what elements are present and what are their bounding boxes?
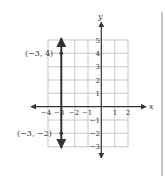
svg-text:5: 5 xyxy=(96,37,100,45)
point-neg3-4 xyxy=(60,52,64,56)
svg-text:2: 2 xyxy=(126,109,130,117)
graph-figure: x y −4 −3 −2 −1 1 2 5 4 3 2 1 −1 −2 −3 (… xyxy=(0,0,165,176)
y-axis-label: y xyxy=(97,12,103,21)
svg-text:4: 4 xyxy=(96,50,101,58)
svg-text:−4: −4 xyxy=(41,109,52,117)
svg-text:−1: −1 xyxy=(82,109,92,117)
svg-text:1: 1 xyxy=(96,90,100,98)
point-neg3-neg2 xyxy=(60,132,64,136)
point-label-neg3-4: (−3, 4) xyxy=(25,49,53,58)
separator-line xyxy=(161,12,163,176)
y-tick-labels: 5 4 3 2 1 −1 −2 −3 xyxy=(90,37,101,151)
x-axis-label: x xyxy=(149,102,154,111)
svg-text:3: 3 xyxy=(96,63,100,71)
point-label-neg3-neg2: (−3, −2) xyxy=(17,129,52,138)
svg-text:−3: −3 xyxy=(54,109,64,117)
svg-text:2: 2 xyxy=(96,77,100,85)
grid xyxy=(48,40,128,147)
svg-text:1: 1 xyxy=(113,109,117,117)
svg-text:−2: −2 xyxy=(90,130,100,138)
svg-text:−3: −3 xyxy=(90,143,100,151)
svg-text:−1: −1 xyxy=(90,117,100,125)
x-tick-labels: −4 −3 −2 −1 1 2 xyxy=(41,109,130,117)
svg-text:−2: −2 xyxy=(69,109,79,117)
